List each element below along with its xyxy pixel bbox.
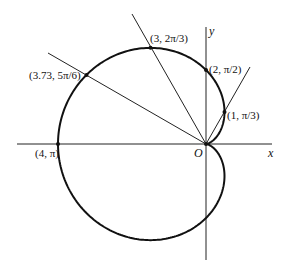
x-axis-label: x xyxy=(267,146,274,160)
y-axis-label: y xyxy=(208,24,215,38)
point-marker xyxy=(223,110,227,114)
polar-cardioid-figure: x y O (1, π/3) (2, π/2) (3, 2π/3) (3.73,… xyxy=(0,0,291,269)
ray-5pi-over-6 xyxy=(48,53,206,144)
origin-label: O xyxy=(194,146,203,160)
point-label-4-pi: (4, π) xyxy=(35,147,59,160)
point-label-2-pi-2: (2, π/2) xyxy=(209,63,242,76)
point-marker xyxy=(204,68,208,72)
point-marker xyxy=(149,46,153,50)
point-label-3.73-5pi-6: (3.73, 5π/6) xyxy=(29,69,81,82)
point-marker xyxy=(84,73,88,77)
point-label-1-pi-3: (1, π/3) xyxy=(227,109,260,122)
point-label-3-2pi-3: (3, 2π/3) xyxy=(150,32,188,45)
point-marker xyxy=(56,142,60,146)
point-markers xyxy=(56,46,227,146)
origin-marker xyxy=(204,142,208,146)
